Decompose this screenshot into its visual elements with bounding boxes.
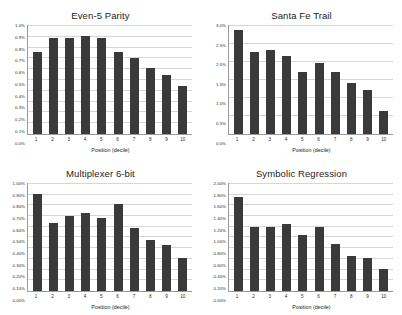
bar xyxy=(363,258,372,291)
y-axis-tick-label: 0.5% xyxy=(216,122,226,126)
chart-panel: Santa Fe Trail3.0%2.5%2.0%1.5%1.0%0.5%0.… xyxy=(201,0,402,158)
x-axis-title: Position (decile) xyxy=(0,304,201,315)
bar xyxy=(298,235,307,291)
x-axis-tick-label: 3 xyxy=(64,137,73,142)
y-axis-tick-label: 1.40% xyxy=(214,217,226,221)
bar xyxy=(97,218,106,291)
x-axis-tick-label: 3 xyxy=(265,137,274,142)
y-axis-tick-label: 0.0% xyxy=(15,142,25,146)
y-axis-tick-label: 1.5% xyxy=(216,83,226,87)
chart-title: Santa Fe Trail xyxy=(201,0,402,25)
chart-grid: Even-5 Parity1.0%0.9%0.8%0.7%0.6%0.5%0.4… xyxy=(0,0,402,315)
bar xyxy=(282,224,291,291)
y-axis-tick-label: 0.9% xyxy=(15,36,25,40)
x-axis-tick-label: 10 xyxy=(379,137,388,142)
bar xyxy=(114,52,123,134)
bar xyxy=(331,72,340,134)
y-axis-tick-label: 0.1% xyxy=(15,130,25,134)
y-axis-tick-label: 1.0% xyxy=(216,102,226,106)
bar xyxy=(65,38,74,134)
x-axis-tick-label: 7 xyxy=(129,137,138,142)
plot-wrapper: 3.0%2.5%2.0%1.5%1.0%0.5%0.0%12345678910 xyxy=(201,25,402,147)
y-axis-tick-label: 1.0% xyxy=(15,24,25,28)
y-axis-tick-labels: 2.00%1.80%1.60%1.40%1.20%1.00%0.80%0.60%… xyxy=(205,183,228,304)
plot-column: 12345678910 xyxy=(228,25,393,147)
x-axis-tick-label: 7 xyxy=(129,294,138,299)
plot-wrapper: 2.00%1.80%1.60%1.40%1.20%1.00%0.80%0.60%… xyxy=(201,183,402,304)
y-axis-tick-label: 1.00% xyxy=(214,240,226,244)
x-axis-tick-label: 8 xyxy=(146,137,155,142)
bar xyxy=(130,58,139,134)
plot-area xyxy=(228,25,393,135)
x-axis-tick-label: 9 xyxy=(363,294,372,299)
x-axis-tick-label: 3 xyxy=(64,294,73,299)
y-axis-tick-label: 0.80% xyxy=(214,252,226,256)
x-axis-tick-label: 2 xyxy=(249,137,258,142)
x-axis-tick-label: 10 xyxy=(178,137,187,142)
bar-series xyxy=(229,183,393,291)
y-axis-tick-label: 0.70% xyxy=(13,217,25,221)
y-axis-tick-label: 0.60% xyxy=(214,264,226,268)
plot-column: 12345678910 xyxy=(27,25,192,147)
y-axis-tick-label: 0.8% xyxy=(15,48,25,52)
bar xyxy=(347,256,356,291)
y-axis-tick-label: 0.30% xyxy=(13,264,25,268)
plot-column: 12345678910 xyxy=(27,183,192,304)
plot-column: 12345678910 xyxy=(228,183,393,304)
y-axis-tick-label: 0.80% xyxy=(13,205,25,209)
y-axis-tick-label: 0.90% xyxy=(13,194,25,198)
x-axis-tick-label: 4 xyxy=(282,137,291,142)
y-axis-tick-labels: 1.00%0.90%0.80%0.70%0.60%0.50%0.40%0.30%… xyxy=(4,183,27,304)
bar xyxy=(33,194,42,291)
x-axis-tick-label: 4 xyxy=(81,137,90,142)
y-axis-tick-label: 0.40% xyxy=(13,252,25,256)
x-axis-tick-label: 4 xyxy=(81,294,90,299)
bar xyxy=(234,30,243,134)
y-axis-tick-label: 2.0% xyxy=(216,63,226,67)
y-axis-tick-label: 1.00% xyxy=(13,182,25,186)
y-axis-tick-labels: 3.0%2.5%2.0%1.5%1.0%0.5%0.0% xyxy=(205,25,228,147)
x-axis-tick-label: 8 xyxy=(146,294,155,299)
y-axis-tick-label: 0.00% xyxy=(214,299,226,303)
y-axis-tick-label: 2.00% xyxy=(214,182,226,186)
bar-series xyxy=(28,25,192,134)
x-axis-tick-label: 10 xyxy=(379,294,388,299)
bar-series xyxy=(28,183,192,291)
bar xyxy=(266,227,275,291)
x-axis-tick-label: 6 xyxy=(314,137,323,142)
x-axis-tick-label: 2 xyxy=(48,137,57,142)
bar xyxy=(347,83,356,134)
x-axis-tick-labels: 12345678910 xyxy=(27,292,192,304)
plot-area xyxy=(228,183,393,292)
y-axis-tick-label: 0.5% xyxy=(15,83,25,87)
y-axis-tick-label: 0.6% xyxy=(15,71,25,75)
bar xyxy=(65,216,74,291)
x-axis-tick-label: 8 xyxy=(347,294,356,299)
x-axis-tick-label: 7 xyxy=(330,137,339,142)
bar xyxy=(234,197,243,292)
bar xyxy=(363,90,372,134)
x-axis-tick-label: 6 xyxy=(113,294,122,299)
x-axis-tick-label: 2 xyxy=(249,294,258,299)
y-axis-tick-label: 0.4% xyxy=(15,95,25,99)
bar xyxy=(178,86,187,134)
bar xyxy=(49,223,58,291)
y-axis-tick-label: 1.20% xyxy=(214,229,226,233)
y-axis-tick-labels: 1.0%0.9%0.8%0.7%0.6%0.5%0.4%0.3%0.2%0.1%… xyxy=(4,25,27,147)
y-axis-tick-label: 0.40% xyxy=(214,275,226,279)
x-axis-tick-label: 5 xyxy=(298,137,307,142)
bar xyxy=(162,245,171,291)
x-axis-tick-labels: 12345678910 xyxy=(27,135,192,147)
bar xyxy=(146,68,155,134)
x-axis-tick-label: 5 xyxy=(97,137,106,142)
bar xyxy=(298,72,307,134)
x-axis-tick-label: 2 xyxy=(48,294,57,299)
y-axis-tick-label: 0.0% xyxy=(216,142,226,146)
bar xyxy=(33,52,42,134)
x-axis-tick-label: 10 xyxy=(178,294,187,299)
x-axis-tick-label: 9 xyxy=(162,137,171,142)
x-axis-tick-labels: 12345678910 xyxy=(228,292,393,304)
x-axis-tick-label: 1 xyxy=(233,137,242,142)
x-axis-tick-label: 6 xyxy=(314,294,323,299)
chart-title: Even-5 Parity xyxy=(0,0,201,25)
